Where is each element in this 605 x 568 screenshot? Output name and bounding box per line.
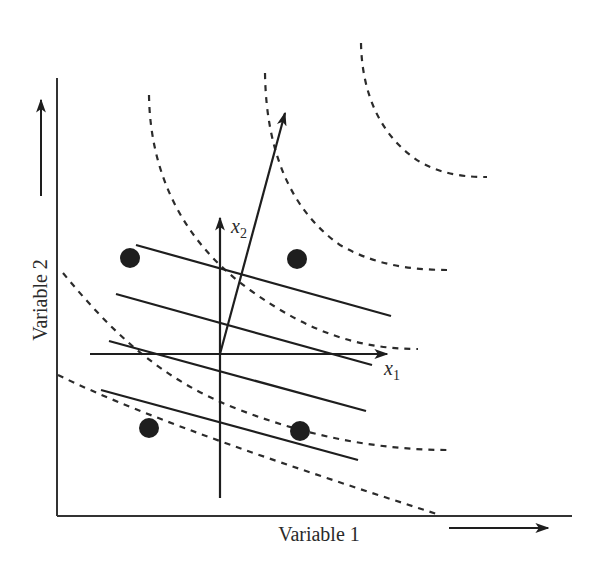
x-axis-title: Variable 1: [278, 523, 360, 545]
contour-curve-5: [361, 43, 487, 177]
data-point: [290, 421, 310, 441]
dashed-contours: [58, 43, 487, 515]
contour-curve-3: [149, 95, 418, 349]
contour-curve-4: [265, 73, 452, 270]
x1-axis-label: x1: [383, 357, 400, 383]
data-points: [120, 248, 310, 441]
parallel-line-1: [136, 245, 391, 316]
new-axes: [90, 113, 387, 498]
data-point: [287, 249, 307, 269]
data-point: [139, 418, 159, 438]
rotated-axis-arrow-icon: [220, 113, 285, 354]
parallel-line-3: [109, 341, 366, 411]
data-point: [120, 248, 140, 268]
y-axis-title: Variable 2: [29, 259, 51, 341]
diagram-canvas: x2 x1 Variable 1 Variable 2: [0, 0, 605, 568]
x2-axis-label: x2: [230, 215, 247, 241]
plot-axes: [57, 78, 572, 516]
